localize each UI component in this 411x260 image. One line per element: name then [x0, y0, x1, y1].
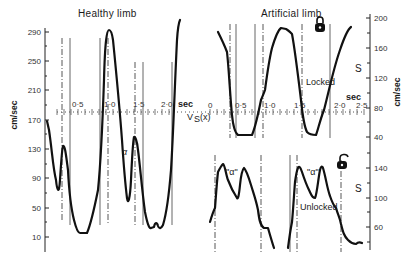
y-right-tick-120: 120 — [374, 74, 388, 83]
x-tick-0.5-healthy: 0·5 — [72, 100, 84, 109]
svg-text:V: V — [187, 112, 193, 122]
s-marker-upper: S — [355, 63, 362, 74]
y-right-tick-100: 100 — [374, 194, 388, 203]
x-tick-1.5-artificial: 1·5 — [294, 101, 306, 110]
healthy-event-markers — [62, 38, 172, 225]
x-tick-0.5-artificial: 0·5 — [235, 101, 247, 110]
unlocked-curve-1 — [210, 164, 274, 248]
sec-label-right: sec — [346, 92, 361, 102]
x-tick-1.0-healthy: 1·0 — [104, 100, 116, 109]
y-tick-10: 10 — [32, 233, 41, 242]
x-tick-2.0-healthy: 2·0 — [161, 100, 173, 109]
healthy-limb-curve — [47, 20, 180, 233]
x-tick-1.0-artificial: 1·0 — [264, 101, 276, 110]
y-tick-90: 90 — [32, 174, 41, 183]
y-tick-130: 130 — [28, 145, 42, 154]
sec-label-left: sec — [178, 99, 193, 109]
y-right-tick-160: 160 — [374, 44, 388, 53]
y-tick-210: 210 — [28, 86, 42, 95]
locked-label: Locked — [306, 77, 335, 87]
x-tick-2.5-artificial: 2·5 — [356, 101, 368, 110]
y-right-tick-40: 40 — [374, 133, 383, 142]
alpha-quoted-label-1: "α" — [226, 167, 238, 177]
time-axis-label: V S (x) — [187, 112, 211, 124]
left-y-axis: 290 250 210 170 130 90 50 10 cm/sec — [9, 28, 49, 252]
alpha-label-healthy: α — [122, 147, 128, 157]
y-tick-250: 250 — [28, 57, 42, 66]
alpha-quoted-label-2: "α" — [307, 167, 319, 177]
artificial-limb-title: Artificial limb — [261, 8, 322, 19]
svg-text:(x): (x) — [200, 112, 211, 122]
right-y-axis: 200 160 120 80 40 140 100 60 cm/sec — [366, 14, 402, 250]
gait-velocity-figure: Healthy limb Artificial limb 290 250 210… — [0, 0, 411, 260]
y-right-tick-200: 200 — [374, 14, 388, 23]
x-tick-2.0-artificial: 2·0 — [334, 101, 346, 110]
y-tick-170: 170 — [28, 116, 42, 125]
x-tick-0-artificial: 0 — [208, 101, 213, 110]
y-tick-50: 50 — [32, 204, 41, 213]
unlocked-label: Unlocked — [300, 202, 338, 212]
healthy-limb-title: Healthy limb — [78, 8, 137, 19]
y-right-tick-60: 60 — [374, 223, 383, 232]
locked-padlock-icon — [315, 17, 325, 32]
y-right-tick-80: 80 — [374, 104, 383, 113]
right-y-axis-label: cm/sec — [392, 77, 402, 106]
s-marker-lower: S — [355, 183, 362, 194]
unlocked-padlock-icon — [337, 154, 348, 169]
y-tick-290: 290 — [28, 28, 42, 37]
y-right-tick-140: 140 — [374, 164, 388, 173]
left-y-axis-label: cm/sec — [9, 100, 19, 129]
